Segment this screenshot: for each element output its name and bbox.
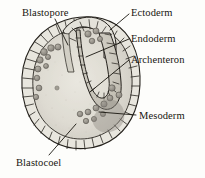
label-mesoderm: Mesoderm [139, 111, 185, 122]
label-endoderm: Endoderm [131, 34, 176, 45]
label-archenteron: Archenteron [131, 55, 185, 66]
embryo-body [22, 17, 140, 150]
blastocoel-center-dot [55, 86, 59, 90]
gastrula-diagram-figure: Blastopore Ectoderm Endoderm Archenteron… [0, 0, 205, 178]
label-ectoderm: Ectoderm [131, 8, 173, 19]
label-blastopore: Blastopore [22, 8, 69, 19]
label-blastocoel: Blastocoel [16, 158, 61, 169]
gastrula-illustration [0, 0, 205, 178]
